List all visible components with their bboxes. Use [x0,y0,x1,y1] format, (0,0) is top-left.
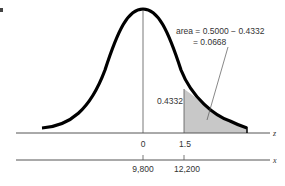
corner-mark [0,8,3,12]
x-axis-label: x [272,156,277,165]
x-tick-9800: 9,800 [132,164,154,174]
z-tick-0: 0 [141,139,146,149]
center-area-label: 0.4332 [157,96,183,106]
z-axis-label: z [272,129,277,138]
annotation-leader-line [207,47,228,120]
normal-distribution-diagram: z area = 0.5000 − 0.4332 = 0.0668 0.4332… [0,0,285,186]
area-annotation-line2: = 0.0668 [193,37,227,47]
shaded-tail-area [184,89,247,133]
z-tick-1.5: 1.5 [179,139,191,149]
area-annotation-line1: area = 0.5000 − 0.4332 [176,26,265,36]
x-tick-12200: 12,200 [174,164,200,174]
